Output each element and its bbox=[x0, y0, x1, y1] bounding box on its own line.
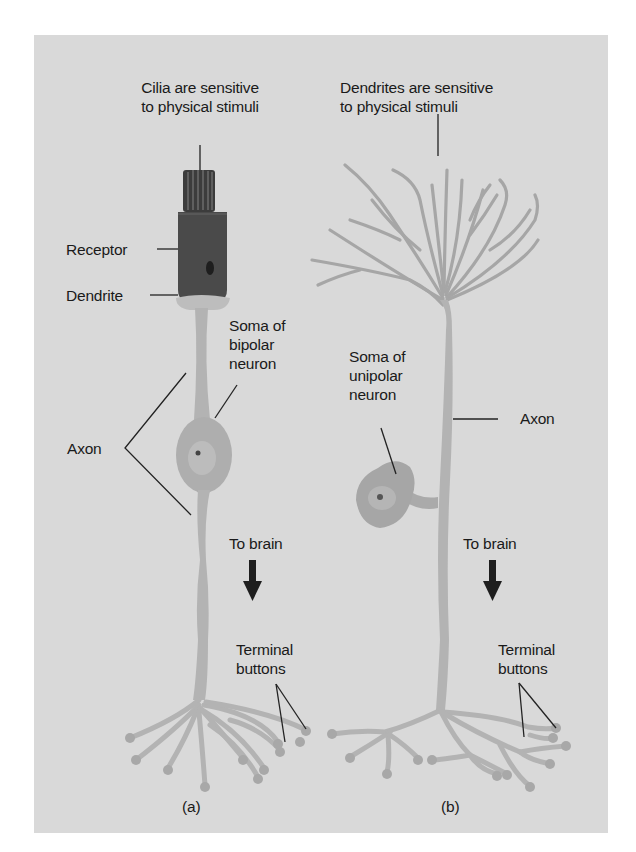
axon-label-a: Axon bbox=[67, 439, 102, 458]
caption-a: (a) bbox=[182, 797, 200, 816]
receptor-label: Receptor bbox=[66, 240, 127, 259]
label-line: Soma of bbox=[229, 316, 285, 335]
bipolar-neuron bbox=[125, 145, 311, 792]
label-line: buttons bbox=[236, 659, 293, 678]
label-line: neuron bbox=[349, 385, 405, 404]
label-line: to physical stimuli bbox=[340, 97, 493, 116]
label-line: Dendrites are sensitive bbox=[340, 78, 493, 97]
dendrite-label: Dendrite bbox=[66, 286, 123, 305]
to-brain-label-b: To brain bbox=[463, 534, 517, 553]
caption-b: (b) bbox=[441, 797, 459, 816]
label-line: to physical stimuli bbox=[118, 97, 282, 116]
label-line: bipolar bbox=[229, 335, 285, 354]
unipolar-neuron bbox=[312, 114, 571, 792]
bipolar-soma-label: Soma of bipolar neuron bbox=[229, 316, 285, 373]
terminal-buttons-label-a: Terminal buttons bbox=[236, 640, 293, 678]
down-arrow-icon bbox=[483, 560, 502, 601]
label-line: Terminal bbox=[236, 640, 293, 659]
label-line: Terminal bbox=[498, 640, 555, 659]
cilia-stimulus-label: Cilia are sensitive to physical stimuli bbox=[118, 78, 282, 116]
label-line: buttons bbox=[498, 659, 555, 678]
cilia-icon bbox=[183, 170, 215, 212]
axon-label-b: Axon bbox=[520, 409, 555, 428]
to-brain-label-a: To brain bbox=[229, 534, 283, 553]
label-line: Soma of bbox=[349, 347, 405, 366]
label-line: neuron bbox=[229, 354, 285, 373]
label-line: unipolar bbox=[349, 366, 405, 385]
terminal-buttons-label-b: Terminal buttons bbox=[498, 640, 555, 678]
receptor-cell-icon bbox=[178, 212, 227, 305]
down-arrow-icon bbox=[243, 560, 262, 601]
unipolar-soma-label: Soma of unipolar neuron bbox=[349, 347, 405, 404]
dendrites-stimulus-label: Dendrites are sensitive to physical stim… bbox=[340, 78, 493, 116]
label-line: Cilia are sensitive bbox=[118, 78, 282, 97]
